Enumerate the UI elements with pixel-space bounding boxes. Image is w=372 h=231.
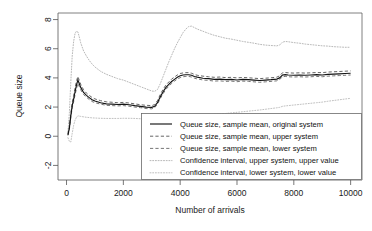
x-tick-label: 2000 bbox=[114, 188, 133, 198]
x-tick-label: 0 bbox=[64, 188, 69, 198]
legend-label: Queue size, sample mean, lower system bbox=[180, 144, 317, 153]
y-axis-title: Queue size bbox=[14, 74, 24, 117]
queue-size-line-chart: -202468 0200040006000800010000 Queue siz… bbox=[0, 0, 372, 231]
y-tick-label: 2 bbox=[43, 104, 53, 109]
y-tick-label: 8 bbox=[43, 17, 53, 22]
x-tick-label: 6000 bbox=[228, 188, 247, 198]
legend-label: Queue size, sample mean, original system bbox=[180, 120, 323, 129]
x-tick-label: 8000 bbox=[284, 188, 303, 198]
legend-label: Confidence interval, lower system, lower… bbox=[180, 168, 336, 177]
y-tick-label: 0 bbox=[43, 134, 53, 139]
chart-legend[interactable]: Queue size, sample mean, original system… bbox=[142, 114, 362, 180]
legend-label: Confidence interval, upper system, upper… bbox=[180, 156, 339, 165]
x-tick-label: 10000 bbox=[339, 188, 363, 198]
y-tick-label: 4 bbox=[43, 75, 53, 80]
y-tick-label: 6 bbox=[43, 46, 53, 51]
x-axis-title: Number of arrivals bbox=[175, 205, 244, 215]
chart-figure: -202468 0200040006000800010000 Queue siz… bbox=[0, 0, 372, 231]
y-tick-label: -2 bbox=[43, 161, 53, 169]
x-tick-label: 4000 bbox=[171, 188, 190, 198]
legend-label: Queue size, sample mean, upper system bbox=[180, 132, 318, 141]
